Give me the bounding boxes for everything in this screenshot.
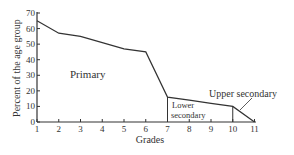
x-tick-label: 5: [122, 124, 127, 134]
x-axis-title: Grades: [136, 134, 164, 145]
y-tick-label: 60: [26, 24, 36, 34]
x-tick-label: 3: [78, 124, 83, 134]
y-tick-label: 50: [26, 39, 36, 49]
x-ticks: 1234567891011: [35, 119, 259, 134]
y-tick-label: 70: [26, 8, 36, 18]
y-tick-label: 20: [26, 86, 36, 96]
chart: 010203040506070 1234567891011 Primary Lo…: [0, 0, 294, 155]
x-tick-label: 1: [35, 124, 40, 134]
y-axis-title: Percent of the age group: [11, 19, 22, 117]
x-tick-label: 8: [187, 124, 192, 134]
y-tick-label: 40: [26, 55, 36, 65]
x-tick-label: 11: [250, 124, 259, 134]
region-label-primary: Primary: [70, 68, 106, 80]
x-tick-label: 7: [165, 124, 170, 134]
x-tick-label: 4: [100, 124, 105, 134]
x-tick-label: 6: [144, 124, 149, 134]
x-tick-label: 9: [209, 124, 214, 134]
region-label-upper: Upper secondary: [209, 88, 277, 99]
y-tick-label: 30: [26, 70, 36, 80]
x-tick-label: 10: [228, 124, 238, 134]
x-tick-label: 2: [57, 124, 62, 134]
y-ticks: 010203040506070: [26, 8, 40, 127]
region-label-lower-line2: secondary: [171, 110, 206, 120]
upper-secondary-pointer: [240, 98, 252, 110]
y-tick-label: 10: [26, 101, 36, 111]
region-label-lower-line1: Lower: [172, 100, 194, 110]
